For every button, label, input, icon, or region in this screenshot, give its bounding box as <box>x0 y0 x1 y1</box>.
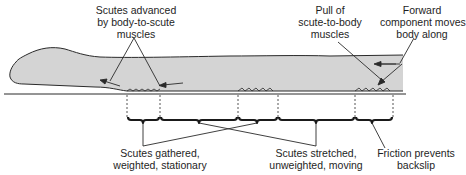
segment-brackets <box>128 117 392 123</box>
segment-dividers <box>127 95 393 117</box>
label-friction: Friction prevents backslip <box>370 147 462 171</box>
label-scutes-gathered: Scutes gathered, weighted, stationary <box>104 147 216 171</box>
label-scutes-stretched: Scutes stretched, unweighted, moving <box>262 147 370 171</box>
label-scutes-advanced: Scutes advanced by body-to-scute muscles <box>92 4 180 40</box>
leader-lines-bottom <box>143 123 385 148</box>
label-forward-component: Forward component moves body along <box>380 4 464 40</box>
label-pull-muscles: Pull of scute-to-body muscles <box>290 4 370 40</box>
snake-body <box>10 48 404 91</box>
